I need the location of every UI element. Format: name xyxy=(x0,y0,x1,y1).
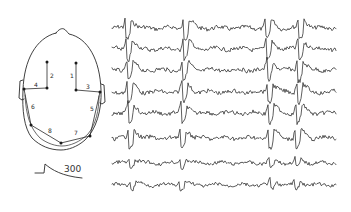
electrode-right-central xyxy=(75,89,78,92)
montage-line xyxy=(24,88,47,89)
eeg-trace-3 xyxy=(112,57,336,83)
electrode-right-temporal xyxy=(99,91,102,94)
montage-lines xyxy=(24,62,100,143)
channel-label: 8 xyxy=(48,127,52,134)
eeg-trace-7 xyxy=(112,156,336,169)
channel-label: 1 xyxy=(70,72,74,79)
channel-label: 4 xyxy=(34,81,38,88)
montage-line xyxy=(76,90,100,92)
channel-label: 5 xyxy=(90,105,94,112)
eeg-figure-canvas: 21436587 300 xyxy=(0,0,351,212)
channel-label: 7 xyxy=(74,129,78,136)
electrode-occipital xyxy=(60,142,63,145)
eeg-trace-5 xyxy=(112,101,336,125)
electrode-right-posterior xyxy=(89,135,92,138)
eeg-trace-4 xyxy=(112,81,336,105)
channel-labels: 21436587 xyxy=(31,72,94,136)
eeg-trace-8 xyxy=(112,177,336,191)
eeg-trace-6 xyxy=(112,129,336,150)
electrode-left-posterior xyxy=(30,124,33,127)
electrode-left-central xyxy=(46,87,49,90)
channel-label: 2 xyxy=(50,72,54,79)
eeg-traces xyxy=(112,18,336,191)
channel-label: 3 xyxy=(86,83,90,90)
inner-jaw-outline xyxy=(25,95,99,146)
head-diagram: 21436587 xyxy=(19,29,105,150)
electrode-left-frontal xyxy=(46,61,49,64)
montage-line xyxy=(31,125,61,143)
eeg-trace-1 xyxy=(112,18,336,40)
electrode-left-temporal xyxy=(23,88,26,91)
calibration-label: 300 xyxy=(64,164,81,174)
electrode-right-frontal xyxy=(75,62,78,65)
channel-label: 6 xyxy=(31,103,35,110)
montage-line xyxy=(24,89,31,125)
eeg-trace-2 xyxy=(112,38,336,61)
eeg-figure: 21436587 300 xyxy=(0,0,351,212)
calibration-marker: 300 xyxy=(35,164,82,178)
